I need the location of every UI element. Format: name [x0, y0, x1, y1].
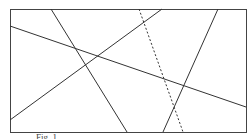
line-e	[139, 9, 183, 132]
line-a	[51, 9, 127, 132]
figure-caption: Fig. 1	[36, 133, 57, 139]
diagram-frame	[11, 10, 247, 133]
line-d	[163, 9, 218, 132]
line-b	[10, 26, 246, 107]
line-c	[10, 9, 162, 120]
diagram-lines	[10, 9, 246, 132]
line-arrangement-diagram	[0, 0, 252, 139]
